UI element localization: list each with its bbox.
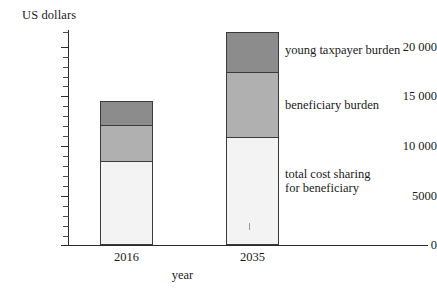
y-tick-label-0: 0 [381,238,437,253]
y-minor-tick [63,77,69,78]
legend-label-total-cost-sharing-line1: total cost sharing [285,168,370,182]
x-category-label-2035: 2035 [226,250,279,265]
bar-segment-total-cost-sharing-2016 [100,161,153,245]
bar-segment-beneficiary-burden-2016 [100,125,153,162]
bar-segment-young-taxpayer-burden-2035 [226,32,279,73]
bar-2016 [100,101,153,245]
legend-label-beneficiary-burden: beneficiary burden [285,99,379,113]
bar-2035 [226,32,279,245]
y-minor-tick [63,136,69,137]
y-minor-tick [63,156,69,157]
y-minor-tick [63,106,69,107]
legend-label-total-cost-sharing-line2: for beneficiary [285,182,370,196]
y-minor-tick [63,226,69,227]
y-minor-tick [63,166,69,167]
y-minor-tick [63,236,69,237]
y-minor-tick [63,206,69,207]
y-tick-label-10000: 10 000 [381,139,437,154]
scan-artifact-mark [249,223,250,230]
bar-segment-beneficiary-burden-2035 [226,72,279,138]
y-minor-tick [63,176,69,177]
bar-segment-total-cost-sharing-2035 [226,137,279,245]
y-minor-tick [63,57,69,58]
y-minor-tick [63,126,69,127]
y-minor-tick [63,116,69,117]
y-minor-tick [63,216,69,217]
y-minor-tick [63,186,69,187]
x-axis-title: year [0,268,437,283]
y-axis-title: US dollars [22,8,76,23]
bar-segment-young-taxpayer-burden-2016 [100,101,153,126]
legend-label-total-cost-sharing: total cost sharing for beneficiary [285,168,370,195]
y-minor-tick [63,67,69,68]
y-minor-tick [63,86,69,87]
stacked-bar-chart: US dollars 20 000 15 000 10 000 5000 0 [0,0,437,290]
y-axis-line [68,30,69,245]
y-minor-tick [63,32,69,33]
y-tick-label-5000: 5000 [381,189,437,204]
legend-label-young-taxpayer-burden: young taxpayer burden [285,44,400,58]
x-axis-line [68,245,428,246]
x-category-label-2016: 2016 [100,250,153,265]
y-tick-label-15000: 15 000 [381,89,437,104]
